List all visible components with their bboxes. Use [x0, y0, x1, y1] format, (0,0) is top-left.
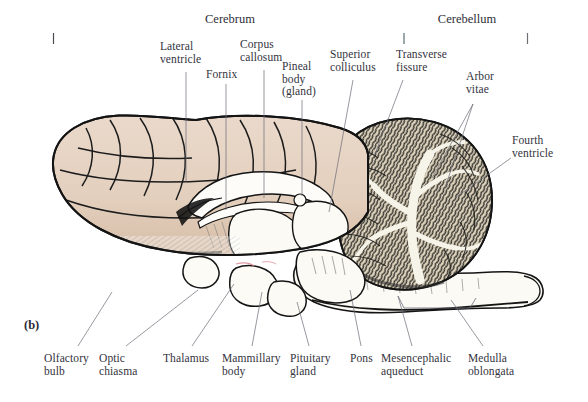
bracket-label-cerebellum: Cerebellum — [405, 12, 529, 26]
bracket-label-cerebrum: Cerebrum — [165, 12, 295, 26]
label-mesencephalic-aqueduct: Mesencephalic aqueduct — [381, 352, 451, 377]
label-pons: Pons — [350, 352, 373, 365]
label-mammillary-body: Mammillary body — [222, 352, 281, 377]
label-lateral-ventricle: Lateral ventricle — [160, 40, 201, 65]
label-olfactory-bulb: Olfactory bulb — [44, 352, 89, 377]
brain-anatomy-figure: Cerebrum Cerebellum (b) Lateral ventricl… — [0, 0, 588, 402]
label-superior-colliculus: Superior colliculus — [330, 48, 376, 73]
label-thalamus: Thalamus — [163, 352, 209, 365]
label-pineal-body: Pineal body (gland) — [282, 60, 316, 98]
label-fornix: Fornix — [206, 68, 237, 81]
label-pituitary-gland: Pituitary gland — [290, 352, 331, 377]
label-corpus-callosum: Corpus callosum — [240, 38, 282, 63]
panel-marker: (b) — [24, 318, 39, 333]
label-optic-chiasma: Optic chiasma — [99, 352, 137, 377]
cerebrum-shape — [53, 115, 368, 267]
label-fourth-ventricle: Fourth ventricle — [512, 134, 553, 159]
label-transverse-fissure: Transverse fissure — [396, 48, 447, 73]
label-arbor-vitae: Arbor vitae — [466, 70, 494, 95]
label-medulla-oblongata: Medulla oblongata — [468, 352, 514, 377]
